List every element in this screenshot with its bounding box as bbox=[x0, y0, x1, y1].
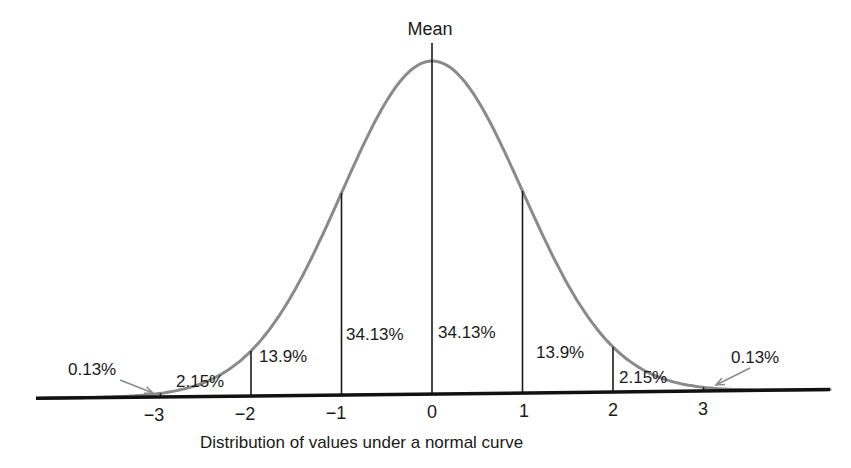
x-tick-labels: −3 −2 −1 0 1 2 3 bbox=[144, 399, 708, 425]
plot-area bbox=[36, 43, 830, 398]
x-tick-label: 1 bbox=[519, 401, 529, 421]
normal-distribution-chart: Mean 0.13% 2.15% 13.9% 34.13% 34.13% 13.… bbox=[0, 0, 851, 468]
segment-label-right-tail: 0.13% bbox=[731, 348, 779, 367]
x-tick-label: −2 bbox=[235, 404, 256, 424]
x-tick-label: 2 bbox=[608, 400, 618, 420]
tail-arrow bbox=[716, 368, 750, 385]
x-tick-label: 0 bbox=[427, 402, 437, 422]
segment-label-0-1: 34.13% bbox=[438, 323, 496, 342]
segment-label-left-tail: 0.13% bbox=[68, 360, 116, 379]
segment-label-neg2-neg1: 13.9% bbox=[259, 347, 307, 366]
segment-label-neg1-0: 34.13% bbox=[346, 325, 404, 344]
x-tick-label: −1 bbox=[326, 403, 347, 423]
x-tick-label: 3 bbox=[698, 399, 708, 419]
segment-label-neg3-neg2: 2.15% bbox=[176, 372, 224, 391]
segment-label-2-3: 2.15% bbox=[619, 368, 667, 387]
mean-annotation: Mean bbox=[407, 19, 452, 39]
x-axis-title: Distribution of values under a normal cu… bbox=[200, 433, 523, 452]
tail-arrow bbox=[120, 380, 153, 393]
segment-label-1-2: 13.9% bbox=[536, 343, 584, 362]
sigma-lines bbox=[161, 43, 704, 397]
normal-curve bbox=[43, 61, 830, 398]
x-tick-label: −3 bbox=[144, 405, 165, 425]
